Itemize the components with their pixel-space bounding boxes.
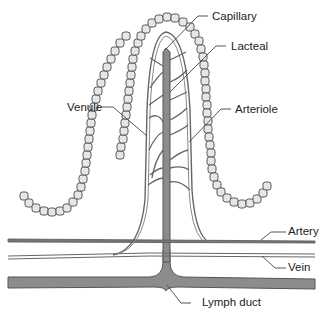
label-lymph-duct: Lymph duct [202, 297, 261, 309]
villus-illustration [0, 0, 328, 322]
label-capillary: Capillary [212, 11, 257, 23]
label-arteriole: Arteriole [235, 104, 278, 116]
label-artery: Artery [288, 226, 319, 238]
vein-leader [262, 256, 286, 268]
vein [8, 253, 315, 256]
label-venule: Venule [67, 102, 102, 114]
label-lacteal: Lacteal [231, 41, 268, 53]
venule [113, 32, 206, 255]
villus-diagram: Capillary Lacteal Venule Arteriole Arter… [0, 0, 328, 322]
lacteal-tube [163, 48, 170, 262]
artery-leader [261, 232, 286, 240]
artery [8, 239, 315, 243]
label-vein: Vein [288, 262, 310, 274]
